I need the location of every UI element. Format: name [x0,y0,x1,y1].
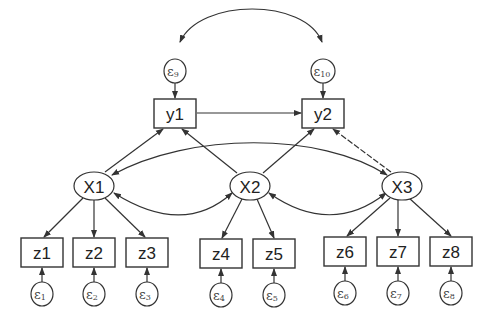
observed-node-y1: y1 [154,99,196,128]
path-X1-z1 [44,198,83,237]
observed-node-z6: z6 [324,237,366,266]
error-node-e7: ε7 [387,281,409,305]
svg-text:X3: X3 [392,178,413,197]
path-X3-z6 [347,198,390,236]
error-node-e4: ε4 [210,283,232,307]
svg-text:z1: z1 [33,244,51,263]
error-node-e5: ε5 [263,283,285,307]
error-node-e2: ε2 [83,282,105,306]
error-node-e10: ε10 [311,59,335,83]
covariance-X1-X2 [114,193,232,215]
error-node-e1: ε1 [31,282,53,306]
path-X2-y1 [182,129,237,173]
svg-text:z6: z6 [336,243,354,262]
path-X2-z5 [257,199,274,238]
path-X1-z3 [105,198,145,237]
observed-node-z4: z4 [200,239,242,268]
svg-text:z5: z5 [265,245,283,264]
observed-node-z8: z8 [430,237,472,266]
svg-text:X1: X1 [84,178,105,197]
svg-text:z3: z3 [138,244,156,263]
svg-text:z4: z4 [212,245,230,264]
svg-text:z2: z2 [85,244,103,263]
latent-node-X1: X1 [74,172,114,200]
svg-text:X2: X2 [240,178,261,197]
svg-text:z8: z8 [442,243,460,262]
svg-text:z7: z7 [389,243,407,262]
sem-diagram: ε9 ε10 y1 y2 X1 X2 X3 z1 z2 z3 z4 [0,0,493,327]
observed-node-z2: z2 [73,238,115,267]
covariance-X2-X3 [269,193,386,215]
covariance-e9-e10 [180,9,322,42]
latent-node-X3: X3 [382,172,422,200]
path-X3-z8 [409,198,451,236]
svg-text:y1: y1 [166,105,184,124]
error-node-e3: ε3 [136,282,158,306]
error-node-e6: ε6 [334,281,356,305]
error-node-e8: ε8 [440,281,462,305]
observed-node-z5: z5 [253,239,295,268]
observed-node-y2: y2 [302,99,344,128]
covariance-X1-X3 [112,143,387,175]
observed-node-z3: z3 [126,238,168,267]
observed-node-z7: z7 [377,237,419,266]
path-X3-y2 [333,129,391,172]
path-X2-y2 [263,129,314,173]
error-node-e9: ε9 [164,59,186,83]
svg-text:y2: y2 [314,105,332,124]
latent-node-X2: X2 [230,172,270,200]
path-X1-y1 [105,129,163,172]
path-X2-z4 [222,199,242,238]
observed-node-z1: z1 [21,238,63,267]
